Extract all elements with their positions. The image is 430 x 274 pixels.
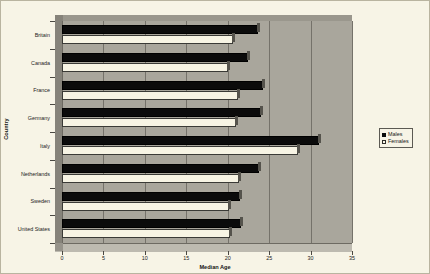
bar-males-britain: [62, 25, 258, 34]
bar-depth-cap: [237, 89, 240, 98]
bar-depth-cap: [258, 162, 261, 171]
x-axis-tick-label: 30: [301, 255, 321, 262]
y-axis-tick: [50, 104, 55, 105]
y-axis-tick: [50, 21, 55, 22]
bar-depth-cap: [240, 217, 243, 226]
legend-item-females: Females: [382, 138, 409, 145]
y-axis-tick: [50, 132, 55, 133]
plot-floor: [55, 243, 352, 252]
bar-females-germany: [62, 118, 236, 127]
x-axis-tick-label: 10: [135, 255, 155, 262]
bar-depth-cap: [235, 116, 238, 125]
bar-males-france: [62, 81, 263, 90]
y-axis-tick: [50, 77, 55, 78]
bar-females-britain: [62, 35, 233, 44]
x-axis-tick-label: 0: [52, 255, 72, 262]
x-axis-tick-label: 15: [176, 255, 196, 262]
bar-depth-cap: [238, 172, 241, 181]
bar-females-italy: [62, 146, 298, 155]
bar-males-sweden: [62, 192, 240, 201]
y-axis-tick: [50, 243, 55, 244]
bar-depth-cap: [262, 79, 265, 88]
bar-depth-cap: [227, 61, 230, 70]
y-axis-tick-label: United States: [0, 226, 50, 232]
bar-females-netherlands: [62, 174, 239, 183]
bar-depth-cap: [260, 106, 263, 115]
bar-depth-cap: [318, 134, 321, 143]
y-axis-tick-label: Canada: [0, 60, 50, 66]
gridline: [352, 21, 353, 243]
legend-swatch-females-icon: [382, 140, 386, 144]
y-axis-tick-label: Netherlands: [0, 171, 50, 177]
x-axis-tick-label: 5: [93, 255, 113, 262]
bar-depth-cap: [232, 33, 235, 42]
bar-depth-cap: [228, 200, 231, 209]
bar-males-germany: [62, 108, 261, 117]
plot-floor-corner: [55, 243, 63, 251]
y-axis-tick: [50, 49, 55, 50]
bar-depth-cap: [297, 144, 300, 153]
chart-legend: Males Females: [379, 128, 413, 148]
y-axis-title: Country: [3, 109, 9, 149]
legend-label-females: Females: [388, 138, 409, 145]
legend-item-males: Males: [382, 131, 409, 138]
bar-females-sweden: [62, 202, 229, 211]
bar-females-canada: [62, 63, 228, 72]
y-axis-tick: [50, 160, 55, 161]
x-axis-tick-label: 20: [218, 255, 238, 262]
y-axis-tick: [50, 188, 55, 189]
y-axis-tick-label: Sweden: [0, 198, 50, 204]
bar-males-netherlands: [62, 164, 259, 173]
bar-females-france: [62, 91, 238, 100]
y-axis-tick-label: Britain: [0, 32, 50, 38]
x-axis-tick-label: 35: [342, 255, 362, 262]
bar-females-united-states: [62, 229, 230, 238]
bar-males-italy: [62, 136, 319, 145]
bar-depth-cap: [229, 227, 232, 236]
x-axis-title: Median Age: [0, 264, 430, 270]
bars-layer: [62, 21, 352, 243]
legend-label-males: Males: [388, 131, 402, 138]
legend-swatch-males-icon: [382, 133, 386, 137]
x-axis-tick-label: 25: [259, 255, 279, 262]
bar-depth-cap: [257, 23, 260, 32]
bar-depth-cap: [239, 190, 242, 199]
bar-depth-cap: [247, 51, 250, 60]
bar-chart: BritainCanadaFranceGermanyItalyNetherlan…: [0, 0, 430, 274]
bar-males-united-states: [62, 219, 241, 228]
y-axis-tick: [50, 215, 55, 216]
y-axis-tick-label: France: [0, 87, 50, 93]
bar-males-canada: [62, 53, 248, 62]
